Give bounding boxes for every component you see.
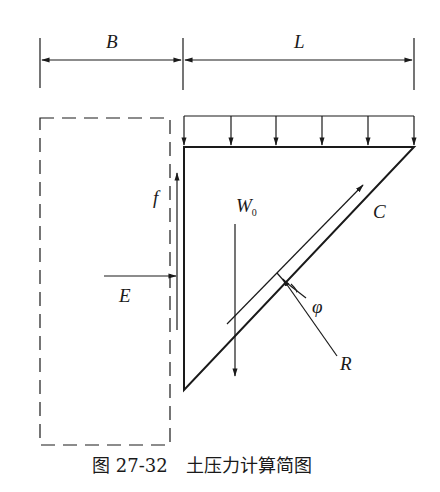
earth-pressure-label: E xyxy=(118,285,131,306)
reaction-arrow xyxy=(283,279,337,356)
friction-angle-label: φ xyxy=(312,296,323,317)
caption-number: 图 27-32 xyxy=(92,455,168,476)
friction-force-label: f xyxy=(153,187,161,208)
weight-label-subscript: 0 xyxy=(252,207,257,218)
surcharge-load xyxy=(184,116,414,145)
soil-wedge-triangle xyxy=(184,147,414,390)
dashed-wall-outline xyxy=(40,118,170,445)
dimension-lines xyxy=(40,38,414,90)
reaction-label: R xyxy=(339,353,352,374)
figure-caption: 图 27-32土压力计算简图 xyxy=(92,455,312,476)
dim-label-l: L xyxy=(293,31,305,52)
earth-pressure-diagram: B L f E W0 C R φ 图 27-32土压力计算简图 xyxy=(0,0,440,492)
cohesion-label: C xyxy=(373,201,386,222)
caption-title: 土压力计算简图 xyxy=(186,455,312,476)
weight-label: W0 xyxy=(236,195,257,218)
dim-label-b: B xyxy=(106,31,118,52)
